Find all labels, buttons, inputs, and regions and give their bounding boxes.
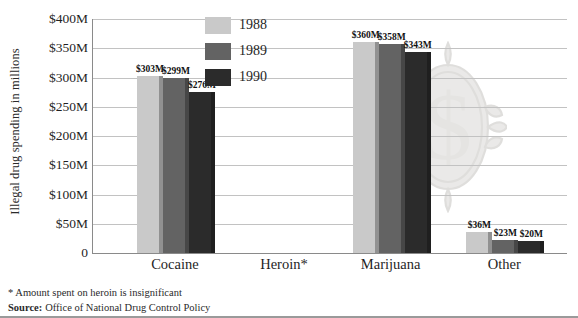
legend-swatch-icon	[205, 69, 231, 86]
source-text: Office of National Drug Control Policy	[45, 302, 210, 313]
bar-side-shading	[211, 92, 215, 253]
x-axis-category-label: Marijuana	[361, 256, 421, 273]
bar-value-label: $358M	[378, 32, 406, 42]
bar-value-label: $23M	[494, 228, 517, 238]
legend-swatch-icon	[205, 43, 231, 60]
bar-face	[163, 78, 185, 253]
source-line: Source:Office of National Drug Control P…	[8, 301, 428, 315]
y-axis-tick-label: $350M	[49, 40, 88, 56]
bar-value-label: $36M	[468, 220, 491, 230]
x-axis-category-label: Cocaine	[151, 256, 199, 273]
source-label: Source:	[8, 302, 42, 313]
x-axis-category-labels: CocaineHeroin*MarijuanaOther	[92, 256, 566, 278]
bar[interactable]: $276M	[189, 92, 215, 253]
y-axis-title-text: Illegal drug spending in millions	[8, 48, 23, 214]
bar-face	[466, 232, 488, 253]
bar[interactable]: $23M	[492, 240, 518, 253]
y-axis-tick-label: $100M	[49, 187, 88, 203]
bar-face	[518, 241, 540, 253]
y-axis-tick-label: $200M	[49, 128, 88, 144]
y-axis-tick-label: $300M	[49, 70, 88, 86]
bar[interactable]: $36M	[466, 232, 492, 253]
bar[interactable]: $360M	[353, 42, 379, 253]
y-axis-tick-label: 0	[81, 245, 88, 261]
bar-face	[137, 76, 159, 253]
svg-text:$: $	[424, 73, 472, 180]
bar-value-label: $20M	[520, 229, 543, 239]
y-axis-tick-label: $400M	[49, 11, 88, 27]
footnotes: * Amount spent on heroin is insignifican…	[8, 286, 428, 315]
bar-face	[492, 240, 514, 253]
footnote-heroin-note: * Amount spent on heroin is insignifican…	[8, 286, 428, 300]
bar[interactable]: $20M	[518, 241, 544, 253]
legend-item-label: 1988	[239, 18, 267, 32]
y-axis-tick-label: $150M	[49, 157, 88, 173]
legend-item-label: 1990	[239, 70, 267, 84]
y-axis-tick-label: $250M	[49, 99, 88, 115]
bar-value-label: $343M	[404, 40, 432, 50]
legend: 198819891990	[205, 14, 297, 92]
legend-item[interactable]: 1989	[205, 40, 297, 62]
bar[interactable]: $358M	[379, 44, 405, 253]
y-axis-tick-label: $50M	[56, 216, 88, 232]
bar-face	[189, 92, 211, 253]
plot-area: $ $303M$299M$276M$360M$358M$343M$36M$23M…	[92, 19, 567, 254]
bar-face	[379, 44, 401, 253]
legend-item[interactable]: 1990	[205, 66, 297, 88]
legend-item[interactable]: 1988	[205, 14, 297, 36]
legend-swatch-icon	[205, 17, 231, 34]
bar-side-shading	[540, 241, 544, 253]
x-axis-category-label: Other	[488, 256, 521, 273]
y-axis-tick-labels: $400M$350M$300M$250M$200M$150M$100M$50M0	[26, 0, 92, 262]
x-axis-category-label: Heroin*	[260, 256, 308, 273]
bar-value-label: $360M	[352, 30, 380, 40]
bar[interactable]: $299M	[163, 78, 189, 253]
bar-side-shading	[427, 52, 431, 253]
legend-item-label: 1989	[239, 44, 267, 58]
bar-value-label: $303M	[136, 64, 164, 74]
bar-group: $36M$23M$20M	[466, 19, 544, 253]
bar-value-label: $299M	[162, 66, 190, 76]
bar[interactable]: $343M	[405, 52, 431, 253]
bar-group: $360M$358M$343M	[353, 19, 431, 253]
bar-chart-figure: Illegal drug spending in millions $400M$…	[0, 0, 578, 318]
bar[interactable]: $303M	[137, 76, 163, 253]
bar-group: $303M$299M$276M	[137, 19, 215, 253]
bar-face	[405, 52, 427, 253]
bar-face	[353, 42, 375, 253]
